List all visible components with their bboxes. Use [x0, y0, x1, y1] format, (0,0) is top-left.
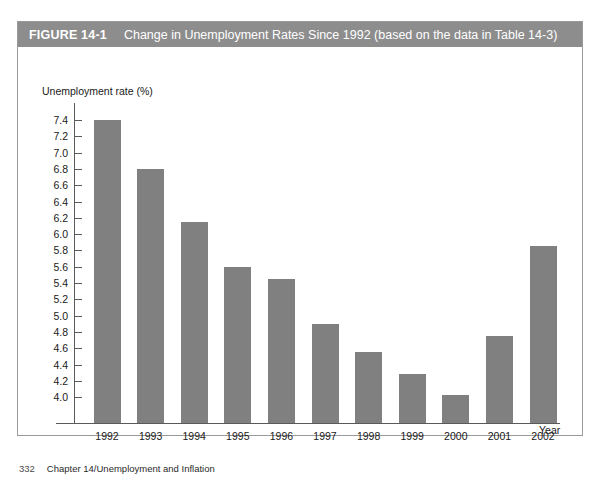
y-axis-tick: [75, 169, 82, 170]
page-number: 332: [19, 463, 35, 474]
y-axis-tick: [75, 381, 82, 382]
bar: [181, 222, 208, 423]
y-axis-tick: [75, 234, 82, 235]
y-axis-tick: [75, 136, 82, 137]
bar: [94, 120, 121, 423]
y-axis-title: Unemployment rate (%): [42, 85, 153, 97]
y-axis-tick-label: 5.2: [26, 294, 68, 305]
figure-number: FIGURE 14-1: [29, 28, 107, 42]
y-axis-tick-label: 5.0: [26, 311, 68, 322]
figure-container: FIGURE 14-1 Change in Unemployment Rates…: [17, 21, 583, 436]
y-axis-tick: [75, 348, 82, 349]
y-axis-tick: [75, 120, 82, 121]
figure-title-bar: FIGURE 14-1 Change in Unemployment Rates…: [18, 22, 582, 47]
y-axis-tick: [75, 332, 82, 333]
y-axis-tick: [75, 397, 82, 398]
running-head: Chapter 14/Unemployment and Inflation: [47, 463, 215, 474]
bar: [442, 395, 469, 423]
y-axis-tick: [75, 299, 82, 300]
bar: [137, 169, 164, 423]
y-axis-tick-label: 5.8: [26, 245, 68, 256]
y-axis-tick: [75, 218, 82, 219]
y-axis-tick-label: 5.6: [26, 262, 68, 273]
y-axis-tick: [75, 250, 82, 251]
y-axis-tick-label: 4.6: [26, 343, 68, 354]
page-footer: 332 Chapter 14/Unemployment and Inflatio…: [19, 463, 215, 474]
bar: [530, 246, 557, 423]
y-axis-tick-label: 6.6: [26, 180, 68, 191]
y-axis-tick-label: 7.4: [26, 115, 68, 126]
bar: [312, 324, 339, 423]
x-axis-tick-label: 2002: [515, 430, 571, 442]
y-axis-tick-label: 4.8: [26, 327, 68, 338]
y-axis-tick-label: 4.4: [26, 360, 68, 371]
y-axis-tick: [75, 316, 82, 317]
y-axis-tick-label: 7.0: [26, 148, 68, 159]
y-axis-tick-label: 5.4: [26, 278, 68, 289]
bar: [486, 336, 513, 423]
y-axis-tick-label: 4.0: [26, 392, 68, 403]
y-axis-tick-label: 6.4: [26, 197, 68, 208]
y-axis-tick: [75, 267, 82, 268]
chart-plot-area: Unemployment rate (%) Year 7.47.27.06.86…: [18, 47, 582, 436]
bar: [224, 267, 251, 423]
y-axis-tick-label: 6.2: [26, 213, 68, 224]
bar: [355, 352, 382, 423]
y-axis-tick: [75, 365, 82, 366]
y-axis-tick: [75, 283, 82, 284]
x-axis-line: [56, 423, 560, 424]
y-axis-tick-label: 6.0: [26, 229, 68, 240]
y-axis-line: [74, 103, 75, 423]
y-axis-tick-label: 4.2: [26, 376, 68, 387]
y-axis-tick: [75, 202, 82, 203]
y-axis-tick: [75, 153, 82, 154]
figure-caption: Change in Unemployment Rates Since 1992 …: [124, 28, 557, 42]
y-axis-tick-label: 7.2: [26, 131, 68, 142]
y-axis-tick-label: 6.8: [26, 164, 68, 175]
bar: [399, 374, 426, 423]
bar: [268, 279, 295, 423]
y-axis-tick: [75, 185, 82, 186]
